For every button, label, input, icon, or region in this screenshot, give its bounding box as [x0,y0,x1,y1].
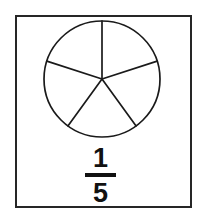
fraction-denominator: 5 [0,179,201,207]
fraction-bar [85,173,116,177]
fraction-numerator: 1 [0,144,201,172]
fraction-label: 1 5 [0,144,201,207]
fraction-diagram-canvas: 1 5 [0,0,201,218]
circle-fraction-model [42,19,162,139]
